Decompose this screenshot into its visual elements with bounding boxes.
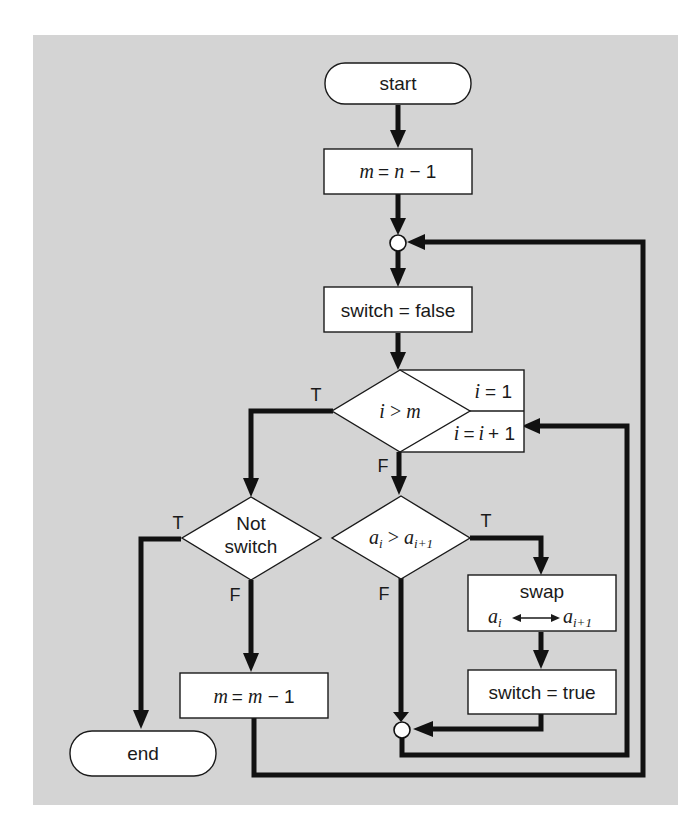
- edge-compare-true: [470, 538, 541, 560]
- loop-test-true-label: T: [311, 385, 322, 405]
- not-switch-line2: switch: [225, 536, 278, 557]
- node-decrement-m: m=m − 1: [180, 673, 328, 718]
- edge-not-switch-true: [141, 539, 181, 712]
- init-m-label: m=n − 1: [360, 160, 437, 182]
- junction-top: [390, 235, 406, 251]
- arrow-down-icon: [391, 476, 407, 495]
- loop-test-false-label: F: [378, 456, 389, 476]
- arrow-down-icon: [390, 352, 406, 370]
- node-switch-true: switch = true: [468, 670, 616, 714]
- start-label: start: [380, 73, 418, 94]
- arrow-down-icon: [390, 130, 406, 148]
- arrow-down-icon: [390, 218, 406, 235]
- compare-true-label: T: [481, 511, 492, 531]
- node-switch-false: switch = false: [324, 287, 472, 332]
- node-start: start: [325, 63, 471, 104]
- node-end: end: [70, 731, 216, 776]
- node-compare: ai>ai+1: [332, 496, 470, 579]
- arrow-left-icon: [522, 418, 540, 434]
- arrow-down-icon: [243, 653, 259, 672]
- switch-false-label: switch = false: [341, 300, 456, 321]
- switch-true-label: switch = true: [488, 682, 595, 703]
- compare-false-label: F: [379, 584, 390, 604]
- end-label: end: [127, 743, 159, 764]
- flowchart: start m=n − 1 switch = false i= 1 i=i+ 1…: [0, 0, 697, 829]
- node-not-switch: Not switch: [182, 497, 321, 580]
- decrement-m-label: m=m − 1: [213, 685, 294, 707]
- node-swap: swap ai ai+1: [468, 575, 616, 631]
- arrow-down-icon: [243, 478, 259, 497]
- arrow-down-icon: [393, 712, 409, 722]
- arrow-down-icon: [533, 557, 549, 575]
- not-switch-true-label: T: [173, 513, 184, 533]
- junction-bottom: [394, 722, 410, 738]
- swap-label: swap: [520, 581, 564, 602]
- decision-shape: [332, 496, 470, 579]
- arrow-down-icon: [390, 268, 406, 287]
- arrow-down-icon: [533, 650, 549, 669]
- edge-loop-test-true: [251, 411, 333, 480]
- arrow-left-icon: [413, 721, 433, 737]
- arrow-down-icon: [133, 710, 149, 729]
- not-switch-false-label: F: [230, 585, 241, 605]
- node-init-m: m=n − 1: [324, 149, 472, 194]
- not-switch-line1: Not: [236, 513, 266, 534]
- arrow-left-icon: [407, 234, 425, 250]
